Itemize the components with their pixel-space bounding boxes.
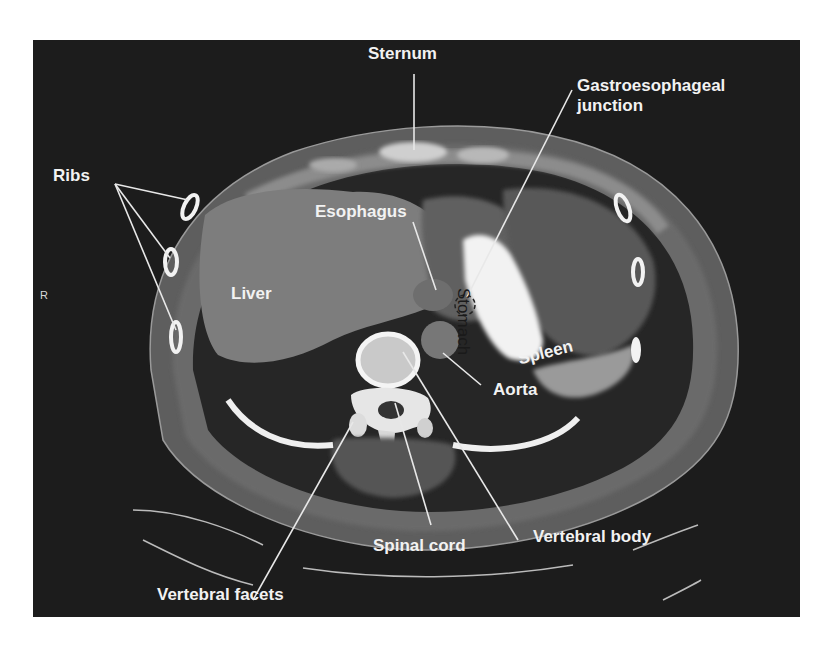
label-ge-junction-line2: junction [577, 96, 643, 115]
label-ge-junction-line1: Gastroesophageal [577, 76, 725, 95]
vertebral-body-bone [358, 334, 418, 386]
label-ribs: Ribs [53, 166, 90, 185]
sternum-bone [379, 142, 447, 162]
label-liver: Liver [231, 284, 272, 303]
label-vertebral-facets: Vertebral facets [157, 585, 284, 604]
label-spinal-cord: Spinal cord [373, 536, 466, 555]
label-esophagus: Esophagus [315, 202, 407, 221]
ct-scan-figure: R Sternum Gastroesophageal junction Ribs… [33, 40, 800, 617]
ct-anatomy-drawing [33, 40, 800, 617]
label-vertebral-body: Vertebral body [533, 527, 651, 546]
label-stomach: Stomach [454, 288, 473, 355]
label-aorta: Aorta [493, 380, 537, 399]
leader-rib-2 [115, 184, 170, 258]
label-sternum: Sternum [368, 44, 437, 63]
orientation-marker-right: R [40, 289, 48, 301]
